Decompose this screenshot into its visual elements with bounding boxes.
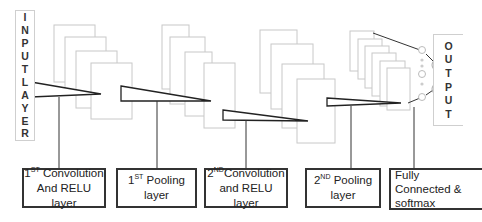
label-line1: Convolution (224, 167, 285, 179)
input-letter: R (21, 127, 29, 139)
output-letter: P (445, 81, 452, 93)
input-letter: E (21, 115, 28, 127)
conv2-label: 2NDConvolution and RELU layer (204, 168, 288, 208)
pool1-label: 1ST Pooling layer (116, 168, 197, 208)
cnn-diagram: I N P U T L A Y E R O U T P U T 1ST Conv… (0, 0, 482, 222)
input-layer-box: I N P U T L A Y E R (15, 10, 35, 141)
input-letter: L (22, 76, 28, 88)
label-line2: and RELU layer (219, 182, 272, 209)
fc-label: Fully Connected & softmax (389, 168, 482, 210)
label-line1: Fully (395, 169, 419, 181)
conv1-label: 1ST Convolution And RELU layer (22, 168, 106, 208)
label-ordinal: ST (31, 166, 40, 173)
output-letter: U (445, 53, 453, 65)
output-letter: U (445, 94, 453, 106)
label-line2: Connected & (395, 183, 462, 195)
input-letter: A (21, 89, 29, 101)
label-ordinal: ND (320, 173, 330, 180)
label-line2: layer (144, 189, 169, 201)
input-letter: N (21, 24, 29, 36)
label-line2: layer (331, 189, 356, 201)
output-layer-box: O U T P U T (433, 34, 463, 126)
input-letter: Y (21, 102, 28, 114)
input-letter: P (21, 37, 28, 49)
input-letter: I (24, 11, 27, 23)
input-letter: U (21, 50, 29, 62)
conv2-feature-maps (260, 30, 335, 143)
label-ordinal: ND (214, 166, 224, 173)
label-line1: Convolution (40, 167, 104, 179)
conv1-feature-maps (54, 25, 132, 119)
pool2-label: 2ND Pooling layer (305, 168, 381, 208)
label-line3: softmax (395, 197, 435, 209)
label-line1: Pooling (143, 174, 185, 186)
output-letter: T (445, 108, 451, 120)
output-letter: O (444, 40, 452, 52)
label-line1: Pooling (330, 174, 372, 186)
label-line2: And RELU layer (37, 182, 91, 209)
output-letter: T (445, 67, 451, 79)
input-letter: T (22, 63, 28, 75)
